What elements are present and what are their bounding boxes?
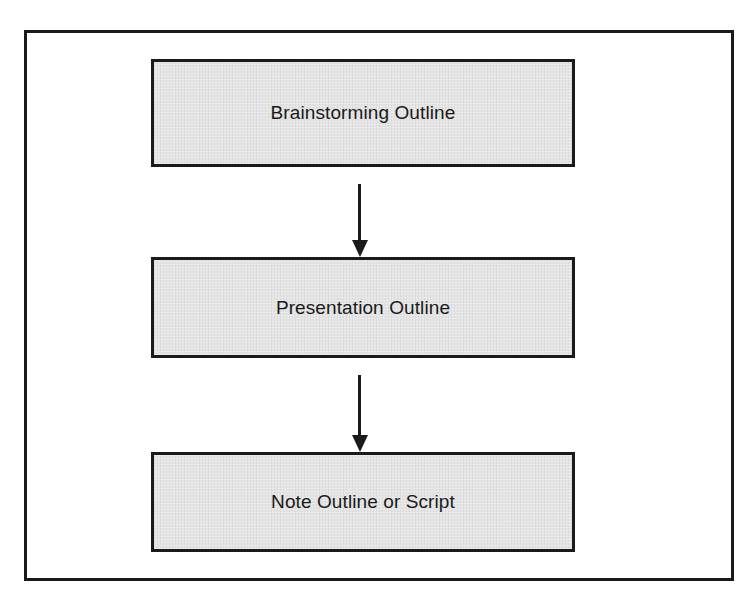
node-label: Presentation Outline (276, 297, 450, 319)
arrow-head (352, 435, 368, 452)
arrow-down-icon (352, 375, 368, 452)
arrow-head (352, 240, 368, 257)
node-brainstorming-outline: Brainstorming Outline (151, 59, 575, 167)
arrow-down-icon (352, 184, 368, 257)
node-label: Brainstorming Outline (271, 102, 456, 124)
node-label: Note Outline or Script (271, 491, 455, 513)
node-presentation-outline: Presentation Outline (151, 257, 575, 358)
arrow-shaft (358, 375, 361, 437)
arrow-shaft (358, 184, 361, 242)
node-note-outline-or-script: Note Outline or Script (151, 452, 575, 552)
